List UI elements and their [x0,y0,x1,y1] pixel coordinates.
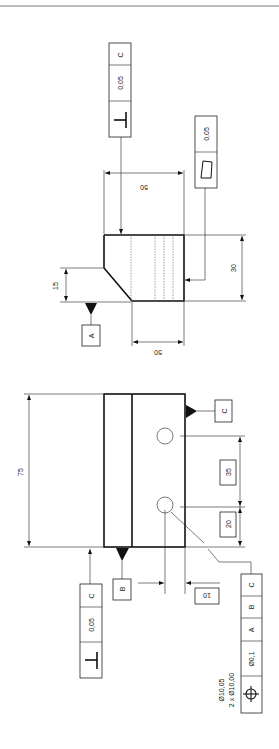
dim-hole-edge-20: 20 [225,520,232,528]
datum-b-label: B [119,586,126,591]
dim-hole-offset-10: 10 [203,592,211,599]
front-view-outline [104,394,185,547]
front-view: 75 35 20 10 B C [17,394,262,713]
fcf-flatness-tolerance: 0,05 [203,127,210,141]
dim-bottom-50: 50 [154,349,162,356]
datum-c-label: C [221,408,228,413]
fcf-front-tolerance: 0,05 [88,618,95,632]
technical-drawing: 50 30 50 15 A C 0,05 [0,0,279,749]
top-view-outline [104,235,184,301]
dim-top-50: 50 [140,184,148,191]
hole-1 [157,428,173,444]
fcf-position-datum-b: B [248,604,255,609]
position-note-line1: Ø10,05 [218,678,225,701]
fcf-position-datum-a: A [248,627,255,632]
dim-length-75: 75 [17,468,24,476]
fcf-front-datum: C [88,593,95,598]
datum-b-triangle [116,548,129,561]
top-view: 50 30 50 15 A C 0,05 [52,43,246,356]
position-note-line2: 2 x Ø10,00 [228,673,235,707]
fcf-top-tolerance: 0,05 [117,76,124,90]
fcf-top-datum: C [117,52,124,57]
dim-right-30: 30 [230,264,237,272]
dim-hole-spacing-35: 35 [225,468,232,476]
fcf-position-datum-c: C [248,582,255,587]
datum-a-label: A [88,333,95,338]
fcf-position-tolerance: Ø0,1 [248,651,255,666]
datum-c-triangle [186,405,197,418]
datum-a-triangle [85,303,97,315]
dim-chamfer-15: 15 [52,282,59,290]
